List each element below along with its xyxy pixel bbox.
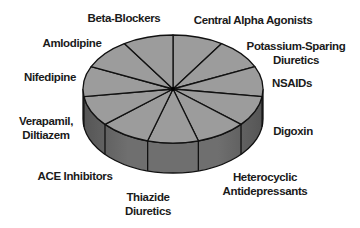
slice-label: Nifedipine (24, 71, 76, 83)
slice-label-line: Verapamil, (19, 115, 73, 127)
slice-label-line: Potassium-Sparing (247, 40, 346, 52)
slice-label-line: Digoxin (273, 125, 313, 137)
slice-label-line: Heterocyclic (233, 171, 298, 183)
slice-label: Potassium-SparingDiuretics (247, 40, 346, 66)
slice-label-line: Diuretics (125, 205, 171, 217)
slice-label: Amlodipine (42, 37, 101, 49)
pie-chart: Central Alpha AgonistsPotassium-SparingD… (0, 0, 360, 228)
slice-label: Beta-Blockers (88, 12, 161, 24)
pie-center (171, 87, 175, 91)
slice-label-line: Thiazide (126, 191, 169, 203)
slice-label-line: Nifedipine (24, 71, 76, 83)
pie-top (83, 35, 263, 143)
slice-label: HeterocyclicAntidepressants (223, 171, 308, 197)
slice-label: Verapamil,Diltiazem (19, 115, 73, 141)
slice-label-line: Beta-Blockers (88, 12, 161, 24)
slice-label: NSAIDs (272, 77, 312, 89)
slice-label-line: Antidepressants (223, 185, 308, 197)
slice-label-line: Amlodipine (42, 37, 101, 49)
slice-label: Central Alpha Agonists (194, 14, 313, 26)
slice-label-line: NSAIDs (272, 77, 312, 89)
slice-label-line: Diuretics (273, 54, 319, 66)
slice-label: ACE Inhibitors (38, 170, 113, 182)
slice-label-line: ACE Inhibitors (38, 170, 113, 182)
slice-label: Digoxin (273, 125, 313, 137)
slice-label-line: Central Alpha Agonists (194, 14, 313, 26)
slice-label-line: Diltiazem (22, 129, 69, 141)
slice-label: ThiazideDiuretics (125, 191, 171, 217)
